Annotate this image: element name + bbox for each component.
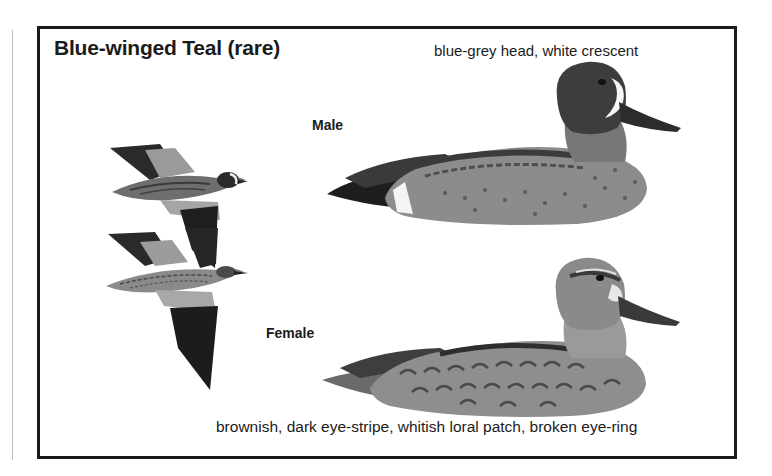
male-teal-illustration xyxy=(325,58,685,228)
female-label: Female xyxy=(266,325,314,341)
left-margin-rule xyxy=(12,30,13,460)
female-teal-illustration xyxy=(320,254,685,419)
flying-teal-lower-illustration xyxy=(100,228,250,393)
male-description: blue-grey head, white crescent xyxy=(434,42,638,59)
female-description: brownish, dark eye-stripe, whitish loral… xyxy=(216,418,637,436)
plate-title: Blue-winged Teal (rare) xyxy=(54,36,280,60)
